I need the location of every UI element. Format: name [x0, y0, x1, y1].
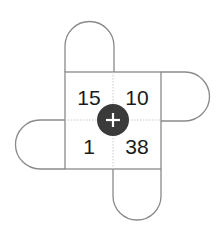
- left-tab: [15, 120, 65, 169]
- cell-top-left: 15: [69, 87, 109, 108]
- cell-bottom-left: 1: [69, 136, 109, 157]
- cell-top-right: 10: [117, 87, 157, 108]
- bottom-tab: [113, 169, 161, 220]
- puzzle-diagram: [0, 0, 224, 232]
- top-tab: [65, 22, 114, 72]
- cell-bottom-right: 38: [117, 136, 157, 157]
- right-tab: [161, 72, 209, 121]
